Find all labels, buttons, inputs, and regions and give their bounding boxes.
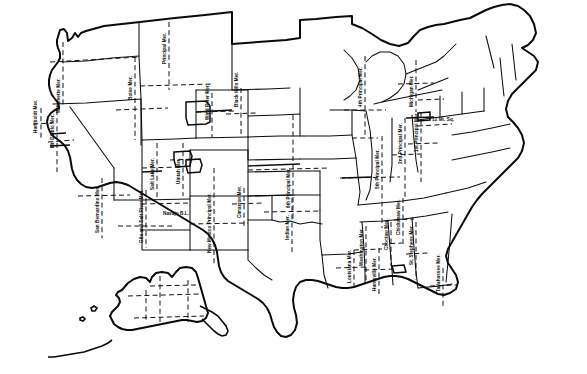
survey-map: Willamette Mer.Humboldt Mer.Mt. Diablo M… — [0, 0, 587, 374]
map-label-fourth-principal: 4th Principal Mer. — [358, 67, 363, 107]
baseline-san-bern — [78, 195, 130, 196]
alaska-baseline-2 — [134, 316, 204, 318]
map-label-washington: Washington Mer. — [359, 228, 364, 266]
map-label-tallahassee: Tallahassee Mer. — [436, 254, 441, 292]
baseline-navajo — [142, 203, 190, 204]
alaska-baseline-3 — [150, 285, 196, 286]
map-label-navajo-bl: Navajo B.L. — [163, 211, 189, 216]
map-label-willamette: Willamette Mer. — [56, 78, 61, 113]
map-label-st-stephens: St. Stephens Mer. — [409, 225, 414, 265]
map-label-first-principal: 1st Principal Mer. — [414, 112, 419, 152]
map-label-sixth-principal: 6th Principal Mer. — [286, 168, 291, 208]
map-label-humboldt: Humboldt Mer. — [33, 100, 38, 133]
map-label-uintah: Uintah Mer. — [176, 158, 181, 184]
map-label-twelve-mi-sq: 12 Mi. Sq. — [432, 117, 454, 122]
map-label-boise: Boise Mer. — [128, 76, 133, 100]
map-label-salt-lake: Salt Lake Mer. — [150, 158, 155, 190]
map-label-cimarron: Cimarron Mer. — [237, 186, 242, 218]
map-label-black-hills: Black Hills Mer. — [234, 72, 239, 107]
baseline-tallahassee — [430, 285, 456, 286]
map-label-mt-diablo: Mt. Diablo Mer. — [50, 114, 55, 148]
alaska-aleutian-chain — [48, 340, 112, 357]
baseline-salt-lake — [142, 167, 180, 168]
baseline-huntsville — [364, 269, 396, 270]
alaska-panhandle — [200, 306, 228, 336]
alaska — [48, 267, 228, 357]
baseline-ohio-river — [418, 124, 452, 126]
alaska-island-1 — [91, 306, 97, 311]
map-label-choctaw: Choctaw Mer. — [384, 219, 389, 250]
map-label-fifth-principal: 5th Principal Mer. — [375, 149, 380, 189]
map-label-chickasaw: Chickasaw Mer. — [396, 199, 401, 235]
alaska-baseline-1 — [128, 294, 200, 296]
map-label-mt-principal: Principal Mer. — [162, 33, 167, 64]
map-label-nm-principal: New Mexico Principal Mer. — [207, 193, 212, 253]
alaska-island-2 — [80, 317, 85, 321]
map-label-huntsville: Huntsville Mer. — [372, 257, 377, 291]
alaska-outline — [110, 267, 208, 330]
state-boundaries — [53, 22, 516, 288]
map-canvas — [0, 0, 587, 374]
map-label-wind-river: Wind River Mer. — [205, 84, 210, 120]
map-label-san-bern: San Bernardino Mer. — [95, 186, 100, 233]
map-label-louisiana: Louisiana Mer. — [347, 250, 352, 283]
map-label-indian: Indian Mer. — [285, 215, 290, 240]
map-label-gila-salt: Gila and Salt River Mer. — [139, 190, 144, 243]
baseline-michigan — [398, 83, 434, 84]
map-label-michigan: Michigan Mer. — [409, 75, 414, 107]
national-outline — [47, 4, 538, 337]
baseline-nm — [190, 223, 248, 224]
principal-meridians — [41, 22, 443, 306]
map-label-second-principal: 2nd Principal Mer. — [398, 123, 403, 164]
tract-ohio-river-survey — [392, 265, 406, 273]
baseline-boise — [116, 108, 168, 110]
baseline-montana — [140, 84, 212, 86]
base-lines — [33, 57, 456, 286]
baseline-first — [408, 143, 438, 144]
